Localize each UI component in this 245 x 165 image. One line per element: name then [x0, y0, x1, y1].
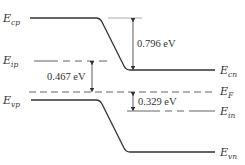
label-evp: Evp: [2, 94, 20, 109]
band-diagram: Ecp Eip Evp Ecn EF Ein Evn 0.796 eV 0.46…: [0, 0, 245, 165]
label-evn: Evn: [219, 146, 237, 161]
p-side-value: 0.467 eV: [47, 71, 86, 82]
label-ecn: Ecn: [219, 64, 237, 79]
conduction-band: [30, 18, 215, 70]
label-ef: EF: [219, 85, 234, 100]
label-eip: Eip: [2, 54, 18, 69]
label-ein: Ein: [219, 105, 235, 120]
valence-band: [31, 100, 215, 152]
barrier-value: 0.796 eV: [137, 38, 176, 49]
label-ecp: Ecp: [2, 12, 20, 27]
n-side-value: 0.329 eV: [138, 96, 177, 107]
